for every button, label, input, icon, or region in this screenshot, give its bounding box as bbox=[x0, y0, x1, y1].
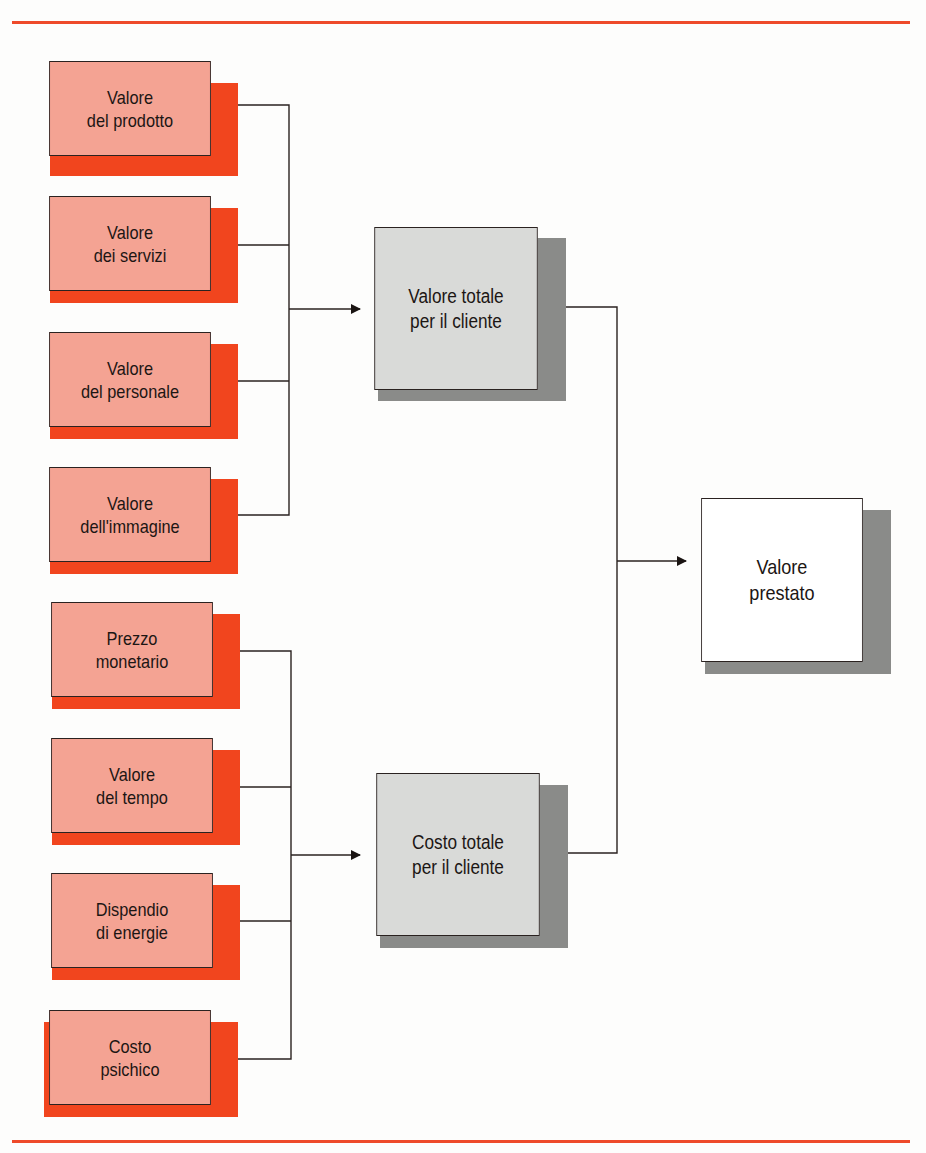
box-label: Valore del personale bbox=[81, 357, 179, 403]
box-valore-prodotto: Valore del prodotto bbox=[49, 61, 211, 156]
box-label: Valore del tempo bbox=[96, 763, 168, 809]
box-label: Valore dei servizi bbox=[94, 221, 167, 267]
box-costo-totale: Costo totale per il cliente bbox=[376, 773, 539, 936]
bottom-rule bbox=[12, 1140, 910, 1143]
box-costo-psichico: Costo psichico bbox=[49, 1010, 211, 1105]
box-label: Valore totale per il cliente bbox=[408, 284, 503, 334]
box-valore-prestato: Valore prestato bbox=[701, 498, 863, 662]
box-label: Prezzo monetario bbox=[96, 627, 169, 673]
box-label: Valore del prodotto bbox=[87, 86, 173, 132]
box-label: Valore prestato bbox=[749, 554, 814, 606]
box-prezzo-monetario: Prezzo monetario bbox=[51, 602, 213, 697]
box-label: Dispendio di energie bbox=[96, 898, 169, 944]
box-label: Valore dell'immagine bbox=[80, 492, 179, 538]
box-valore-servizi: Valore dei servizi bbox=[49, 196, 211, 291]
box-valore-personale: Valore del personale bbox=[49, 332, 211, 427]
box-valore-immagine: Valore dell'immagine bbox=[49, 467, 211, 562]
box-valore-totale: Valore totale per il cliente bbox=[374, 227, 537, 390]
box-label: Costo totale per il cliente bbox=[412, 830, 504, 880]
box-dispendio-energie: Dispendio di energie bbox=[51, 873, 213, 968]
box-label: Costo psichico bbox=[100, 1035, 159, 1081]
box-valore-tempo: Valore del tempo bbox=[51, 738, 213, 833]
